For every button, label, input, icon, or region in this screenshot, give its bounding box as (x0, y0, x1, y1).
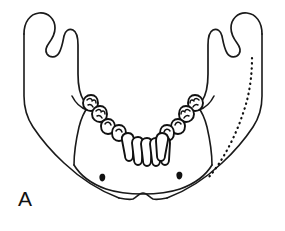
body-inner-sweep (74, 165, 212, 194)
panel-label: A (18, 187, 32, 210)
left-ramus-outline (24, 13, 88, 107)
right-inner-body-contour (198, 107, 212, 165)
left-posterior-teeth-group (83, 95, 126, 141)
mandible-outline-group (24, 13, 262, 200)
right-mental-foramen (176, 172, 182, 180)
right-ramus-outline (198, 13, 262, 107)
mental-foramina-group (99, 172, 182, 182)
mandible-illustration: A (0, 0, 285, 231)
left-inner-body-contour (74, 107, 88, 165)
anterior-teeth-group (122, 133, 170, 166)
left-mental-foramen (99, 174, 105, 182)
figure-panel: A (0, 0, 285, 231)
